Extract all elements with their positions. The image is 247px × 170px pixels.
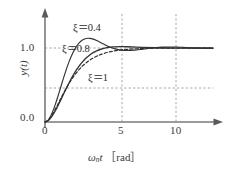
x-axis-label: ωnt ［rad］ xyxy=(88,148,141,164)
y-axis-arrowhead xyxy=(42,8,49,18)
curve-label-zeta-0-8: ξ＝0.8 xyxy=(62,40,90,55)
axis-lines xyxy=(42,8,223,128)
x-axis-arrowhead xyxy=(214,118,224,125)
x-tick-label-0: 0 xyxy=(42,124,48,136)
step-response-chart: y(t) ωnt ［rad］ 0 5 10 0.0 1.0 ξ＝0.4 ξ＝0.… xyxy=(0,0,247,170)
x-tick-label-5: 5 xyxy=(118,124,124,136)
plot-canvas xyxy=(0,0,247,170)
y-tick-label-0.0: 0.0 xyxy=(20,111,34,123)
x-axis-label-symbol: ω xyxy=(88,151,96,163)
vertical-gridlines xyxy=(122,14,176,122)
x-tick-label-10: 10 xyxy=(170,124,181,136)
curve-label-zeta-0-4: ξ＝0.4 xyxy=(73,19,101,34)
x-axis-label-unit: ［rad］ xyxy=(105,151,141,163)
y-axis-label: y(t) xyxy=(17,51,29,85)
curve-label-zeta-1: ξ＝1 xyxy=(88,69,108,84)
x-axis-label-variable: t xyxy=(100,151,103,163)
y-tick-label-1.0: 1.0 xyxy=(20,41,34,53)
